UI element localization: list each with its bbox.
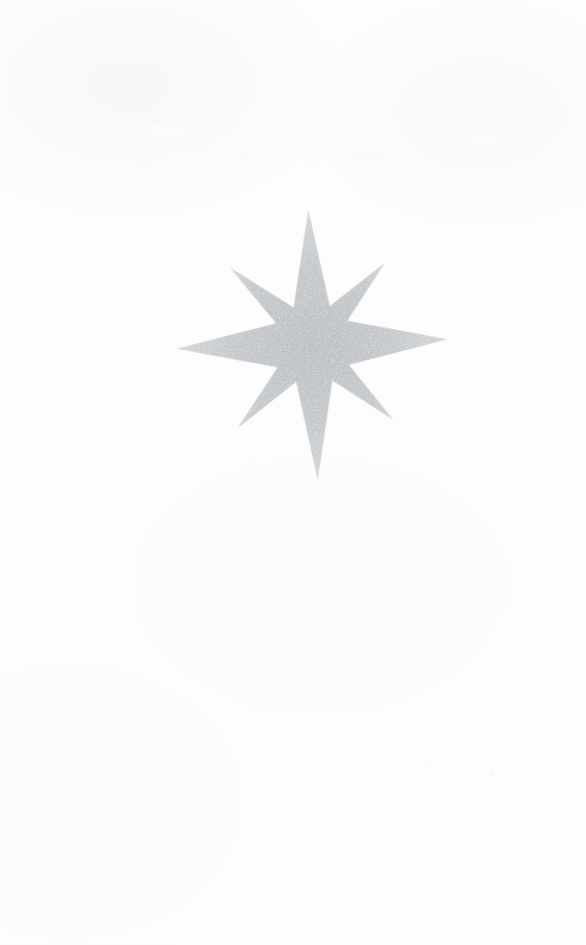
- scanned-page: [0, 0, 586, 945]
- eight-pointed-star-icon: [145, 180, 481, 510]
- star-body: [172, 205, 451, 484]
- star-figure-container: [0, 0, 586, 945]
